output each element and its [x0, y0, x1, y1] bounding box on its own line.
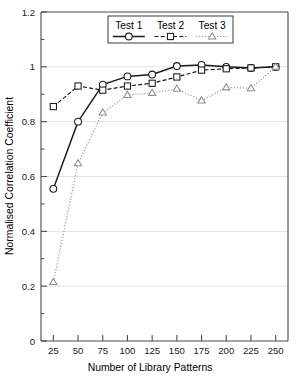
legend-marker-circle-icon: [125, 33, 132, 40]
data-point-marker: [248, 65, 254, 71]
y-axis-title: Normalised Correlation Coefficient: [4, 97, 15, 255]
chart-legend: Test 1Test 2Test 3: [108, 16, 233, 43]
data-point-marker: [74, 160, 81, 166]
data-point-marker: [75, 83, 81, 89]
series-line: [53, 67, 275, 282]
y-tick-label: 0.6: [22, 171, 35, 182]
y-axis-tick-labels: 00.20.40.60.811.2: [22, 7, 36, 347]
y-tick-label: 0.4: [22, 226, 36, 237]
x-tick-label: 50: [73, 345, 84, 356]
data-point-marker: [100, 87, 106, 93]
series-test-3: [50, 63, 280, 284]
x-axis-tick-labels: 255075100125150175200225250: [48, 345, 284, 356]
gridlines: [41, 67, 288, 286]
data-point-marker: [173, 63, 180, 70]
x-tick-label: 175: [194, 345, 210, 356]
data-point-marker: [223, 84, 230, 90]
data-point-marker: [223, 66, 229, 72]
data-point-marker: [148, 89, 155, 95]
data-point-marker: [50, 103, 56, 109]
data-point-marker: [99, 109, 106, 115]
y-tick-label: 1.2: [22, 7, 35, 18]
data-point-marker: [173, 85, 180, 91]
x-tick-label: 125: [144, 345, 160, 356]
y-tick-label: 1: [30, 61, 35, 72]
data-point-marker: [124, 83, 130, 89]
x-tick-label: 200: [218, 345, 234, 356]
legend-label-1: Test 1: [115, 20, 143, 31]
data-point-marker: [174, 74, 180, 80]
line-chart: 00.20.40.60.811.2 2550751001251501752002…: [0, 0, 298, 376]
data-point-marker: [247, 85, 254, 91]
data-point-marker: [50, 278, 57, 284]
legend-marker-square-icon: [167, 33, 173, 39]
x-axis-title: Number of Library Patterns: [88, 362, 213, 373]
x-tick-label: 75: [97, 345, 108, 356]
x-tick-label: 100: [119, 345, 135, 356]
chart-container: 00.20.40.60.811.2 2550751001251501752002…: [0, 0, 298, 376]
data-point-marker: [124, 73, 131, 80]
data-point-marker: [198, 67, 204, 73]
data-point-marker: [75, 118, 82, 125]
series-line: [53, 67, 275, 107]
legend-label-2: Test 2: [157, 20, 185, 31]
x-tick-label: 225: [243, 345, 259, 356]
y-tick-label: 0.2: [22, 281, 35, 292]
data-point-marker: [50, 185, 57, 192]
x-tick-label: 25: [48, 345, 59, 356]
series-test-1: [50, 62, 279, 193]
y-tick-label: 0.8: [22, 116, 35, 127]
y-tick-label: 0: [30, 336, 35, 347]
series-line: [53, 65, 275, 189]
x-axis-ticks: [53, 335, 275, 341]
data-point-marker: [149, 80, 155, 86]
data-series-group: [50, 62, 280, 285]
x-tick-label: 150: [169, 345, 185, 356]
data-point-marker: [149, 71, 156, 78]
x-tick-label: 250: [268, 345, 284, 356]
y-axis-ticks: [41, 12, 47, 341]
legend-label-3: Test 3: [199, 20, 227, 31]
